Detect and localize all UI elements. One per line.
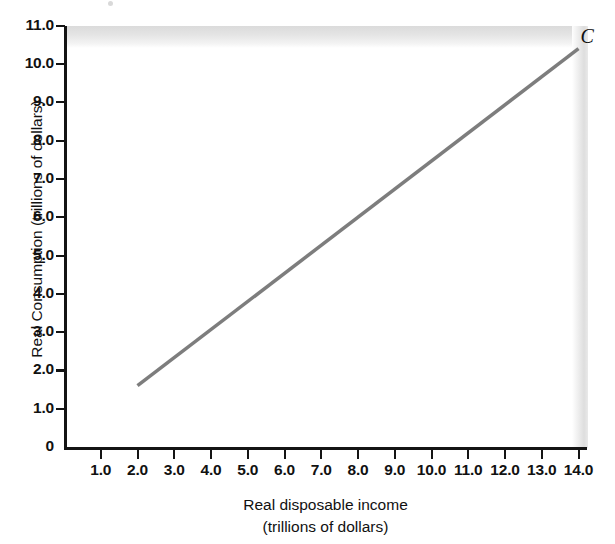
chart-figure: 01.02.03.04.05.06.07.08.09.010.011.0 1.0… xyxy=(0,0,615,544)
series-label-c: C xyxy=(581,25,594,48)
series-line-c xyxy=(138,49,579,386)
series-lines xyxy=(138,49,579,386)
plot-area xyxy=(0,0,615,544)
